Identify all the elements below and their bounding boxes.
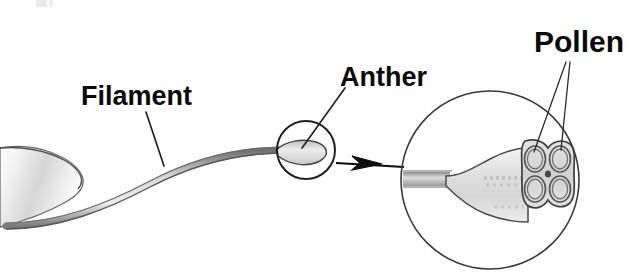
label-filament: Filament <box>81 81 192 111</box>
magnified-anther <box>403 140 574 222</box>
filament-leader-line <box>146 112 164 166</box>
label-anther: Anther <box>340 62 427 92</box>
arrow-head <box>352 156 382 170</box>
magnify-arrow <box>336 156 404 170</box>
filament-shape <box>0 146 284 229</box>
diagram-canvas: Filament Anther Pollen <box>0 0 634 278</box>
anther-tip-shape <box>276 140 326 164</box>
label-pollen: Pollen <box>534 25 624 58</box>
pollen-leader-line-left <box>534 62 566 152</box>
connective-dot <box>545 170 551 177</box>
magnified-filament-stub <box>403 172 450 186</box>
anther-tip-body <box>276 140 326 164</box>
scan-artifact <box>36 0 53 7</box>
anther-leader-line <box>302 88 345 148</box>
stamen-diagram: Filament Anther Pollen <box>0 0 634 278</box>
